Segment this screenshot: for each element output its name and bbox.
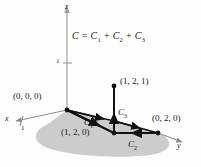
- point-label-apex: (1, 2, 1): [120, 77, 149, 86]
- point-label-origin: (0, 0, 0): [13, 92, 42, 101]
- curve-label-c1-sub: 1: [90, 123, 93, 129]
- z-axis-tick-label: 1: [56, 58, 60, 65]
- equation-plus1: +: [101, 30, 113, 41]
- curve-label-c1: C1: [84, 118, 93, 129]
- figure-graphics: [0, 0, 201, 167]
- equation-label: C = C1 + C2 + C3: [72, 31, 145, 44]
- equation-plus2: +: [123, 30, 135, 41]
- dot-apex: [112, 84, 117, 89]
- dot-base: [112, 131, 117, 136]
- curve-label-c2: C2: [128, 140, 137, 151]
- point-label-y-axis-point: (0, 2, 0): [152, 114, 181, 123]
- equation-c1: C: [91, 30, 98, 41]
- dot-origin: [65, 108, 70, 113]
- dot-y-axis-point: [156, 131, 161, 136]
- equation-c3-sub: 3: [142, 36, 146, 43]
- equation-equals: =: [79, 30, 91, 41]
- x-axis-tick-label: 1: [21, 125, 25, 132]
- z-axis-label: z: [65, 3, 68, 11]
- curve-label-c3-sub: 3: [124, 113, 127, 119]
- curve-label-c2-sub: 2: [134, 145, 137, 151]
- y-axis-label: y: [177, 142, 181, 150]
- equation-c: C: [72, 30, 79, 41]
- equation-c3: C: [135, 30, 142, 41]
- curve-label-c3: C3: [118, 108, 127, 119]
- x-axis-label: x: [5, 115, 9, 123]
- vector-calculus-figure: C = C1 + C2 + C3 z 1 x 1 y (0, 0, 0) (1,…: [0, 0, 201, 167]
- equation-c2: C: [113, 30, 120, 41]
- point-label-base: (1, 2, 0): [61, 128, 90, 137]
- z-axis: [63, 6, 72, 110]
